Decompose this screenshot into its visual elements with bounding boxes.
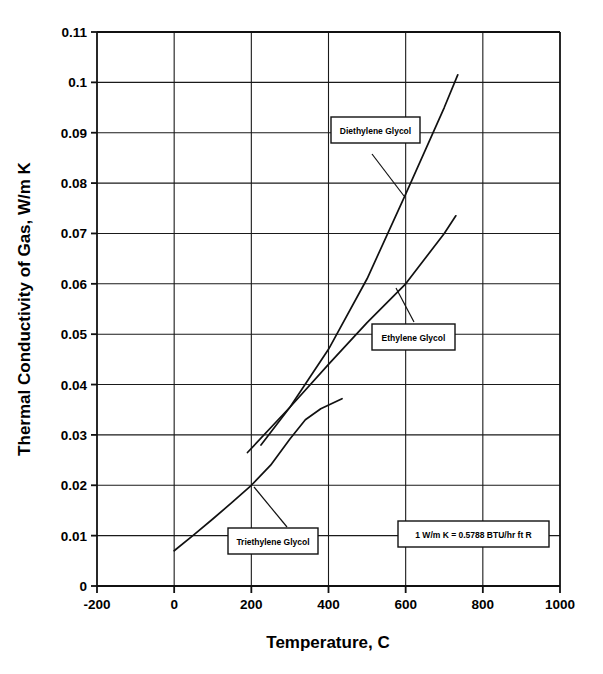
ytick-label-0.02: 0.02: [61, 478, 87, 493]
xtick-label-1000: 1000: [545, 597, 575, 612]
annotation-label-ethylene: Ethylene Glycol: [382, 333, 446, 343]
note-text: 1 W/m K = 0.5788 BTU/hr ft R: [415, 530, 531, 540]
annotation-label-triethylene: Triethylene Glycol: [236, 537, 309, 547]
chart-container: 00.010.020.030.040.050.060.070.080.090.1…: [0, 0, 603, 674]
ytick-label-0.03: 0.03: [61, 428, 88, 443]
ytick-label-0.01: 0.01: [61, 529, 88, 544]
xtick-label-400: 400: [317, 597, 340, 612]
x-axis-title: Temperature, C: [266, 633, 389, 652]
annotation-ethylene-glycol[interactable]: Ethylene Glycol: [372, 324, 455, 350]
y-axis-title: Thermal Conductivity of Gas, W/m K: [15, 161, 34, 455]
ytick-label-0.08: 0.08: [61, 176, 88, 191]
unit-conversion-note: 1 W/m K = 0.5788 BTU/hr ft R: [398, 521, 549, 547]
x-axis-tickmarks: [97, 586, 560, 593]
annotation-triethylene-glycol[interactable]: Triethylene Glycol: [228, 528, 318, 554]
ytick-label-0.04: 0.04: [61, 378, 88, 393]
annotation-diethylene-glycol[interactable]: Diethylene Glycol: [331, 117, 420, 143]
xtick-label-200: 200: [240, 597, 263, 612]
chart-canvas: 00.010.020.030.040.050.060.070.080.090.1…: [0, 0, 603, 674]
ytick-label-0.1: 0.1: [68, 75, 87, 90]
ytick-label-0.07: 0.07: [61, 226, 87, 241]
ytick-label-0.09: 0.09: [61, 126, 87, 141]
annotation-label-diethylene: Diethylene Glycol: [340, 126, 411, 136]
ytick-label-0.05: 0.05: [61, 327, 88, 342]
xtick-label--200: -200: [83, 597, 110, 612]
ytick-label-0: 0: [79, 579, 87, 594]
xtick-label-800: 800: [472, 597, 495, 612]
xtick-label-0: 0: [170, 597, 178, 612]
ytick-label-0.06: 0.06: [61, 277, 88, 292]
y-axis-tick-labels: 00.010.020.030.040.050.060.070.080.090.1…: [61, 25, 88, 594]
x-axis-tick-labels: -20002004006008001000: [83, 597, 575, 612]
xtick-label-600: 600: [394, 597, 417, 612]
ytick-label-0.11: 0.11: [61, 25, 87, 40]
